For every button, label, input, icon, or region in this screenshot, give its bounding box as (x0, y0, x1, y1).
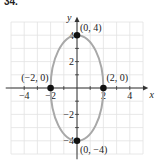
point-label: (0, 4) (80, 22, 102, 34)
x-tick-label: 4 (127, 90, 132, 101)
ellipse-plot: xy−4−224−4−224(0, 4)(0, −4)(−2, 0)(2, 0) (0, 0, 157, 167)
vertex-point (100, 85, 107, 92)
x-tick-label: −4 (19, 90, 30, 101)
y-tick-label: 2 (69, 56, 74, 67)
x-axis-label: x (149, 89, 155, 100)
point-label: (0, −4) (80, 144, 107, 156)
x-axis-arrow-icon (143, 86, 148, 91)
point-label: (−2, 0) (21, 72, 48, 84)
y-tick-label: −2 (63, 109, 74, 120)
y-axis-arrow-icon (75, 17, 80, 22)
y-axis-label: y (66, 12, 72, 23)
point-label: (2, 0) (106, 72, 128, 84)
vertex-point (47, 85, 54, 92)
